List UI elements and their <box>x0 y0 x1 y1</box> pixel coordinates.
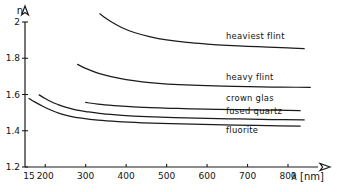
y-tick-label: 1.6 <box>6 90 21 100</box>
x-axis-arrow-icon <box>320 163 330 170</box>
x-tick-label: 200 <box>37 171 54 181</box>
curve-heavy-flint <box>78 64 311 87</box>
y-tick-label: 1.2 <box>6 162 20 172</box>
x-tick-label: 700 <box>239 171 256 181</box>
series-label-heaviest-flint: heaviest flint <box>226 31 285 41</box>
y-tick-labels: 1.21.41.61.82 <box>6 17 21 172</box>
x-tick-labels: 15200300400500600700800 <box>23 171 297 181</box>
series-label-crown-glas: crown glas <box>226 93 274 103</box>
x-tick-label: 600 <box>198 171 215 181</box>
x-tick-label: 15 <box>23 171 34 181</box>
series-label-fused-quartz: fused quartz <box>226 106 283 116</box>
y-tick-label: 2 <box>14 17 20 27</box>
chart-canvas: 1.21.41.61.82 15200300400500600700800 n … <box>0 0 337 192</box>
y-tick-label: 1.4 <box>6 126 21 136</box>
x-tick-label: 400 <box>118 171 135 181</box>
y-axis-title: n <box>17 5 23 16</box>
series-label-fluorite: fluorite <box>226 125 258 135</box>
y-tick-label: 1.8 <box>6 53 21 63</box>
x-tick-label: 300 <box>77 171 94 181</box>
x-tick-label: 500 <box>158 171 175 181</box>
x-axis-title-symbol: λ <box>291 171 297 182</box>
dispersion-chart: 1.21.41.61.82 15200300400500600700800 n … <box>0 0 337 192</box>
series-label-heavy-flint: heavy flint <box>226 72 274 82</box>
x-axis-title-unit: [nm] <box>300 171 324 182</box>
